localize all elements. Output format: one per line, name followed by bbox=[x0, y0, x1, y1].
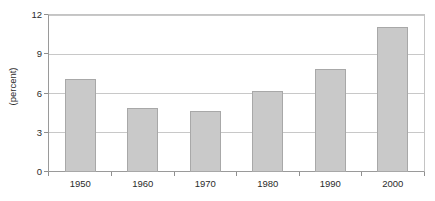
y-tick-label-6: 6 bbox=[14, 88, 42, 99]
x-tick-mark-0 bbox=[48, 172, 49, 176]
bar-1990 bbox=[315, 69, 346, 172]
x-tick-mark-5 bbox=[361, 172, 362, 176]
x-tick-mark-4 bbox=[299, 172, 300, 176]
x-tick-mark-1 bbox=[111, 172, 112, 176]
x-label-1990: 1990 bbox=[299, 178, 362, 189]
bar-1980 bbox=[252, 91, 283, 172]
y-axis-title-text: (percent) bbox=[7, 67, 18, 105]
y-tick-mark-3 bbox=[44, 132, 48, 133]
y-tick-label-9: 9 bbox=[14, 48, 42, 59]
bars-layer bbox=[49, 15, 424, 172]
y-tick-mark-6 bbox=[44, 93, 48, 94]
bar-1950 bbox=[65, 79, 96, 172]
bar-slot-1980 bbox=[237, 15, 300, 172]
bar-1960 bbox=[127, 108, 158, 172]
x-tick-mark-2 bbox=[174, 172, 175, 176]
y-tick-mark-12 bbox=[44, 14, 48, 15]
x-tick-mark-6 bbox=[424, 172, 425, 176]
bar-2000 bbox=[377, 27, 408, 172]
x-label-1970: 1970 bbox=[174, 178, 237, 189]
y-tick-label-3: 3 bbox=[14, 127, 42, 138]
bar-slot-1990 bbox=[299, 15, 362, 172]
y-tick-label-0: 0 bbox=[14, 166, 42, 177]
x-label-1980: 1980 bbox=[237, 178, 300, 189]
x-axis-labels: 1950 1960 1970 1980 1990 2000 bbox=[49, 178, 424, 189]
bar-slot-2000 bbox=[362, 15, 425, 172]
y-tick-mark-9 bbox=[44, 53, 48, 54]
x-tick-mark-3 bbox=[236, 172, 237, 176]
bar-slot-1970 bbox=[174, 15, 237, 172]
bar-chart: (percent) 12 9 6 3 0 bbox=[0, 0, 435, 201]
x-label-1960: 1960 bbox=[112, 178, 175, 189]
x-label-2000: 2000 bbox=[362, 178, 425, 189]
bar-1970 bbox=[190, 111, 221, 172]
x-label-1950: 1950 bbox=[49, 178, 112, 189]
bar-slot-1960 bbox=[112, 15, 175, 172]
y-tick-label-12: 12 bbox=[14, 9, 42, 20]
y-axis-title: (percent) bbox=[0, 0, 24, 172]
bar-slot-1950 bbox=[49, 15, 112, 172]
